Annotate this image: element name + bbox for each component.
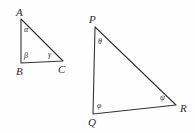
angle-label-gamma: γ	[48, 51, 51, 59]
vertex-label-r: R	[180, 103, 187, 114]
vertex-label-a: A	[16, 7, 23, 18]
triangles-canvas	[0, 0, 195, 133]
angle-label-beta: β	[24, 52, 28, 60]
vertex-label-q: Q	[88, 117, 96, 128]
vertex-label-c: C	[58, 64, 65, 75]
angle-label-psi: ψ	[160, 94, 165, 102]
geometry-figure: A B C α β γ P Q R θ φ ψ	[0, 0, 195, 133]
vertex-label-b: B	[16, 66, 23, 77]
angle-label-theta: θ	[98, 38, 102, 46]
angle-label-alpha: α	[24, 26, 28, 34]
angle-label-phi: φ	[97, 102, 101, 110]
vertex-label-p: P	[89, 14, 96, 25]
